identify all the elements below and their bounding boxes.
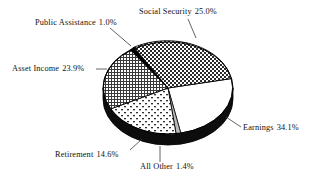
pie-label-retirement: Retirement14.6% (55, 151, 119, 159)
pie-chart: Social Security25.0% Public Assistance1.… (0, 0, 315, 179)
leader-line-retirement (130, 139, 142, 150)
pie-label-social-security-value: 25.0% (195, 7, 217, 16)
pie-label-asset-income-value: 23.9% (62, 64, 84, 73)
pie-label-social-security-name: Social Security (139, 7, 192, 16)
leader-line-social-security (188, 19, 196, 38)
pie-label-retirement-value: 14.6% (96, 150, 118, 159)
pie-label-public-assistance: Public Assistance1.0% (35, 19, 117, 27)
pie-label-all-other-name: All Other (140, 162, 173, 171)
pie-label-earnings: Earnings34.1% (243, 124, 299, 132)
pie-label-all-other: All Other1.4% (140, 163, 194, 171)
leader-line-public-assistance (110, 28, 131, 46)
pie-label-asset-income: Asset Income23.9% (12, 65, 84, 73)
pie-label-all-other-value: 1.4% (176, 162, 194, 171)
pie-label-retirement-name: Retirement (55, 150, 93, 159)
pie-label-public-assistance-value: 1.0% (99, 18, 117, 27)
leader-line-earnings (226, 117, 241, 127)
pie-label-earnings-value: 34.1% (277, 123, 299, 132)
pie-label-public-assistance-name: Public Assistance (35, 18, 96, 27)
pie-label-asset-income-name: Asset Income (12, 64, 59, 73)
pie-label-social-security: Social Security25.0% (139, 8, 217, 16)
pie-label-earnings-name: Earnings (243, 123, 274, 132)
